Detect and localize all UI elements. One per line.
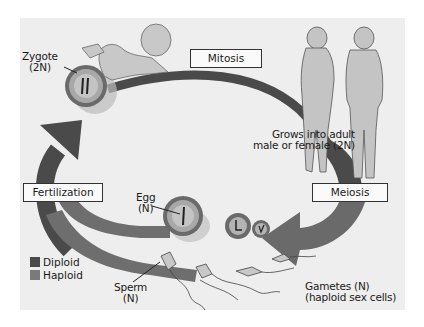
diploid-swatch: [30, 257, 40, 267]
adult-male-figure: [346, 27, 383, 178]
zygote-label: Zygote (2N): [22, 51, 58, 73]
egg-ploidy: (N): [136, 203, 155, 214]
egg-cell: [163, 196, 210, 242]
fertilization-stage-box: Fertilization: [23, 183, 103, 202]
meiosis-cells: [225, 213, 270, 239]
gametes-label: Gametes (N) (haploid sex cells): [305, 281, 396, 303]
zygote-ploidy: (2N): [22, 62, 58, 73]
meiosis-stage-box: Meiosis: [312, 183, 388, 202]
legend-label-diploid: Diploid: [43, 256, 80, 268]
sperm-ploidy: (N): [114, 293, 147, 304]
legend-item-diploid: Diploid: [30, 256, 83, 268]
legend: Diploid Haploid: [30, 256, 83, 282]
adult-growth-line2: male or female (2N): [225, 140, 355, 151]
gametes-line2: (haploid sex cells): [305, 292, 396, 303]
gamete-sperm-cells: [236, 254, 316, 276]
legend-label-haploid: Haploid: [43, 269, 83, 281]
sperm-label: Sperm (N): [114, 282, 147, 304]
adult-growth-label: Grows into adult male or female (2N): [225, 129, 355, 151]
legend-item-haploid: Haploid: [30, 269, 83, 281]
haploid-swatch: [30, 270, 40, 280]
mitosis-stage-box: Mitosis: [190, 49, 262, 68]
fertilization-label: Fertilization: [32, 186, 93, 198]
meiosis-label: Meiosis: [331, 186, 370, 198]
mitosis-label: Mitosis: [208, 52, 244, 64]
egg-label: Egg (N): [136, 192, 155, 214]
sperm-cells: [161, 252, 280, 310]
